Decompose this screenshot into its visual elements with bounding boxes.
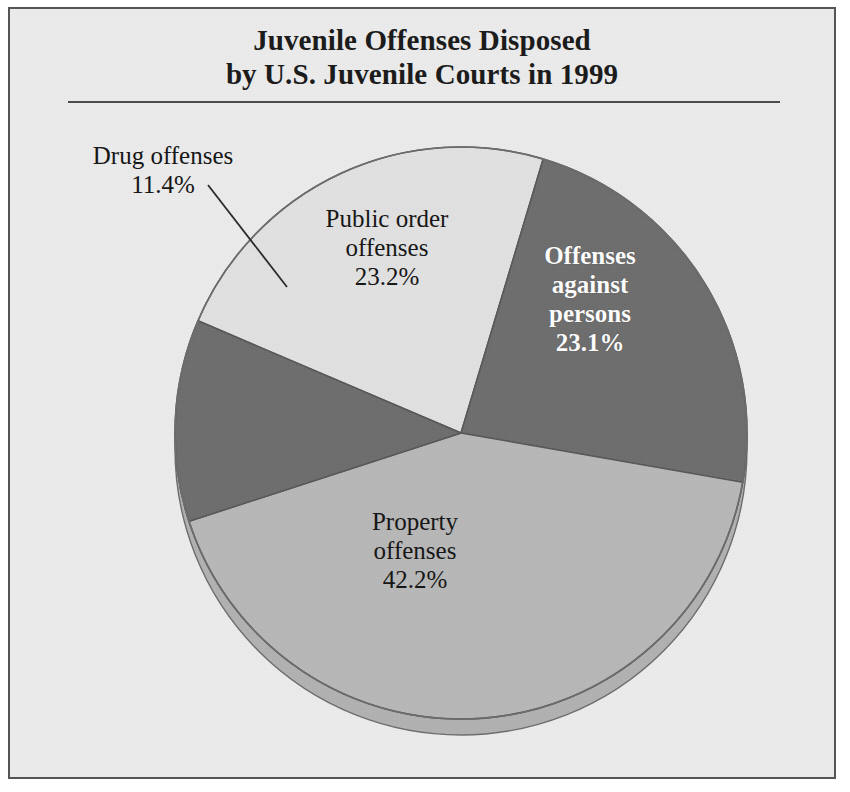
drug-offenses-name: Drug offenses — [48, 141, 278, 170]
drug-offenses-value: 11.4% — [48, 170, 278, 199]
property-name-line-2: offenses — [300, 536, 530, 565]
figure-root: Juvenile Offenses Disposed by U.S. Juven… — [0, 0, 850, 792]
pie-label-property-offenses: Property offenses 42.2% — [300, 507, 530, 594]
public-order-name-line-1: Public order — [272, 204, 502, 233]
persons-name-line-1: Offenses — [480, 241, 700, 270]
property-name-line-1: Property — [300, 507, 530, 536]
figure-frame: Juvenile Offenses Disposed by U.S. Juven… — [8, 7, 836, 779]
pie-chart-area: Drug offenses 11.4% Public order offense… — [10, 9, 838, 781]
pie-label-offenses-against-persons: Offenses against persons 23.1% — [480, 241, 700, 357]
pie-chart-svg — [10, 9, 838, 781]
persons-name-line-2: against — [480, 270, 700, 299]
public-order-name-line-2: offenses — [272, 233, 502, 262]
public-order-value: 23.2% — [272, 262, 502, 291]
pie-label-drug-offenses: Drug offenses 11.4% — [48, 141, 278, 199]
pie-label-public-order-offenses: Public order offenses 23.2% — [272, 204, 502, 291]
persons-name-line-3: persons — [480, 299, 700, 328]
property-value: 42.2% — [300, 565, 530, 594]
persons-value: 23.1% — [480, 328, 700, 357]
